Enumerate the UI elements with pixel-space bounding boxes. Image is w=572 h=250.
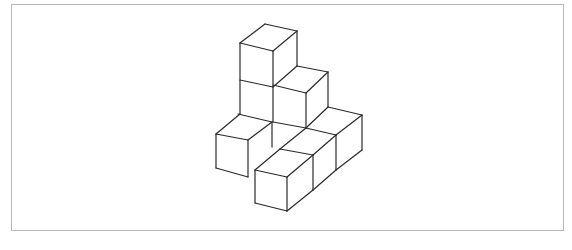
cube-edge bbox=[240, 80, 273, 87]
cube-edge bbox=[328, 107, 362, 115]
cube-edge bbox=[313, 170, 336, 190]
stacked-cubes-drawing bbox=[0, 0, 572, 250]
cube-edge bbox=[238, 114, 272, 122]
cube-edge bbox=[306, 128, 336, 135]
cube-edge bbox=[306, 107, 328, 128]
cube-edge bbox=[313, 135, 336, 155]
cube-edge bbox=[255, 170, 287, 177]
cube-edge bbox=[255, 149, 280, 170]
cube-edge bbox=[248, 122, 272, 140]
cube-edge bbox=[336, 115, 362, 135]
cube-edge bbox=[273, 85, 306, 93]
cube-edge bbox=[273, 122, 306, 128]
cube-edge bbox=[216, 114, 240, 134]
cube-edge bbox=[265, 24, 297, 31]
cube-edge bbox=[280, 128, 306, 149]
cube-edge bbox=[240, 24, 265, 43]
cube-edge bbox=[240, 43, 273, 51]
cube-edge bbox=[287, 190, 313, 211]
cube-edge bbox=[280, 149, 313, 155]
cube-edge bbox=[273, 66, 297, 87]
cube-edge bbox=[297, 66, 328, 72]
cube-edge bbox=[336, 150, 362, 170]
cube-edge bbox=[255, 203, 287, 211]
cube-edge bbox=[306, 72, 328, 93]
cube-edge bbox=[216, 168, 248, 177]
cube-edge bbox=[287, 155, 313, 177]
cube-edge bbox=[216, 134, 248, 140]
cube-edge bbox=[273, 31, 297, 51]
